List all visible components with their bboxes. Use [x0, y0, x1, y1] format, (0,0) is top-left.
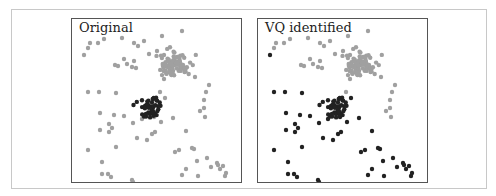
- data-point: [333, 52, 337, 56]
- data-point: [361, 66, 365, 70]
- data-point: [328, 39, 332, 43]
- data-point: [110, 126, 114, 130]
- data-point: [175, 66, 179, 70]
- data-point: [341, 49, 345, 53]
- data-point: [311, 62, 315, 66]
- data-point: [284, 111, 288, 115]
- data-point: [272, 90, 276, 94]
- data-point: [112, 113, 116, 117]
- data-point: [171, 116, 175, 120]
- data-point: [391, 156, 395, 160]
- data-point: [348, 77, 352, 81]
- data-point: [353, 58, 357, 62]
- data-point: [164, 63, 168, 67]
- data-point: [167, 58, 171, 62]
- data-point: [370, 129, 374, 133]
- data-point: [82, 53, 86, 57]
- data-point: [357, 116, 361, 120]
- data-point: [205, 156, 209, 160]
- data-point: [172, 55, 176, 59]
- data-point: [100, 160, 104, 164]
- vq-identified-scatter-plot: [258, 19, 428, 183]
- data-point: [216, 163, 220, 167]
- data-point: [321, 100, 325, 104]
- data-point: [371, 65, 375, 69]
- data-point: [402, 163, 406, 167]
- data-point: [384, 109, 388, 113]
- data-point: [191, 63, 195, 67]
- data-point: [333, 106, 337, 110]
- data-point: [308, 57, 312, 61]
- data-point: [358, 55, 362, 59]
- data-point: [295, 175, 299, 179]
- data-point: [109, 175, 113, 179]
- data-point: [332, 99, 336, 103]
- data-point: [154, 98, 158, 102]
- data-point: [195, 159, 199, 163]
- data-point: [114, 145, 118, 149]
- data-point: [116, 64, 120, 68]
- data-point: [330, 112, 334, 116]
- data-point: [204, 90, 208, 94]
- data-point: [376, 146, 380, 150]
- data-point: [340, 98, 344, 102]
- data-point: [329, 106, 333, 110]
- data-point: [142, 39, 146, 43]
- data-point: [125, 62, 129, 66]
- data-point: [135, 100, 139, 104]
- data-point: [88, 41, 92, 45]
- data-point: [377, 63, 381, 67]
- data-point: [171, 50, 175, 54]
- data-point: [193, 75, 197, 79]
- data-point: [410, 171, 414, 175]
- data-point: [356, 64, 360, 68]
- data-point: [190, 146, 194, 150]
- data-point: [317, 103, 321, 107]
- data-point: [337, 110, 341, 114]
- data-point: [308, 114, 312, 118]
- data-point: [363, 148, 367, 152]
- data-point: [153, 103, 157, 107]
- data-point: [357, 50, 361, 54]
- data-point: [316, 65, 320, 69]
- data-point: [173, 150, 177, 154]
- data-point: [120, 36, 124, 40]
- data-point: [97, 90, 101, 94]
- data-point: [318, 59, 322, 63]
- data-point: [370, 167, 374, 171]
- data-point: [153, 130, 157, 134]
- data-point: [100, 172, 104, 176]
- data-point: [300, 145, 304, 149]
- data-point: [146, 99, 150, 103]
- data-point: [379, 75, 383, 79]
- data-point: [339, 103, 343, 107]
- data-point: [132, 41, 136, 45]
- data-point: [331, 138, 335, 142]
- data-point: [194, 53, 198, 57]
- data-point: [274, 41, 278, 45]
- data-point: [339, 130, 343, 134]
- data-point: [160, 73, 164, 77]
- original-scatter-plot: [72, 19, 242, 183]
- data-point: [345, 120, 349, 124]
- data-point: [322, 44, 326, 48]
- original-scatter-panel: Original: [71, 18, 242, 183]
- data-point: [224, 171, 228, 175]
- data-point: [340, 54, 344, 58]
- data-point: [382, 174, 386, 178]
- data-point: [177, 148, 181, 152]
- data-point: [132, 59, 136, 63]
- data-point: [187, 72, 191, 76]
- data-point: [143, 106, 147, 110]
- data-point: [300, 91, 304, 95]
- data-point: [395, 165, 399, 169]
- data-point: [168, 45, 172, 49]
- data-point: [366, 53, 370, 57]
- data-point: [326, 98, 330, 102]
- data-point: [180, 29, 184, 33]
- data-point: [366, 29, 370, 33]
- data-point: [131, 103, 135, 107]
- data-point: [288, 37, 292, 41]
- data-point: [96, 41, 100, 45]
- data-point: [318, 41, 322, 45]
